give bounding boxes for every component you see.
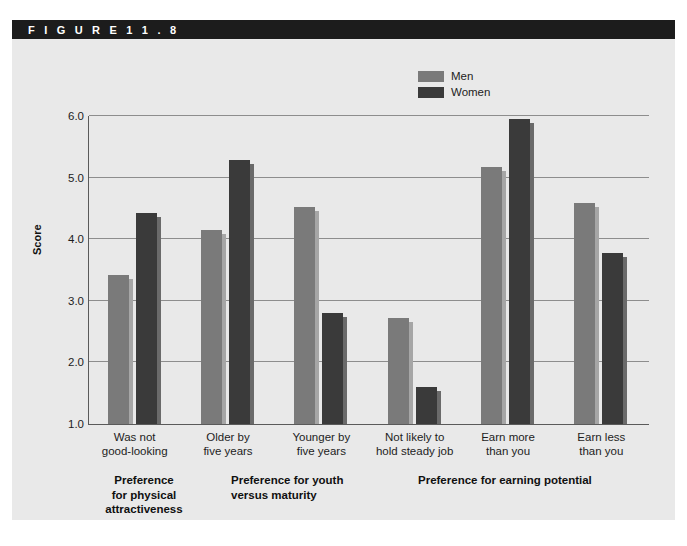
bar-women-1 bbox=[229, 160, 254, 424]
bar-shadow bbox=[157, 217, 161, 424]
bar-shadow bbox=[222, 234, 226, 424]
x-label-line-1: Earn less bbox=[546, 430, 656, 444]
bar-men-2 bbox=[294, 207, 319, 424]
bar-men-4 bbox=[481, 167, 506, 424]
y-axis-tick: 5.0 bbox=[52, 172, 84, 184]
group-label-0: Preferencefor physicalattractiveness bbox=[84, 473, 204, 517]
legend-item-women: Women bbox=[418, 86, 490, 98]
y-axis-title: Score bbox=[31, 224, 43, 255]
group-label-line-1: Preference for youth bbox=[231, 473, 421, 488]
bar-women-4 bbox=[509, 119, 534, 424]
bar-shadow bbox=[315, 211, 319, 424]
bar-shadow bbox=[530, 123, 534, 424]
bar-face bbox=[481, 167, 502, 424]
legend-label-men: Men bbox=[451, 70, 473, 82]
x-axis-category-labels: Was notgood-lookingOlder byfive yearsYou… bbox=[88, 430, 648, 464]
bar-shadow bbox=[343, 317, 347, 424]
legend-swatch-men-icon bbox=[418, 71, 444, 82]
y-axis-tick-labels: 6.05.04.03.02.01.0 bbox=[52, 104, 84, 436]
y-axis-tick: 1.0 bbox=[52, 418, 84, 430]
bar-shadow bbox=[409, 322, 413, 424]
bar-face bbox=[294, 207, 315, 424]
figure-header-bar: F I G U R E 1 1 . 8 bbox=[12, 20, 675, 39]
bar-men-1 bbox=[201, 230, 226, 424]
group-label-line-2: for physical bbox=[84, 488, 204, 503]
group-label-2: Preference for earning potential bbox=[418, 473, 678, 488]
bar-women-2 bbox=[322, 313, 347, 424]
chart-legend: Men Women bbox=[418, 70, 490, 98]
bar-face bbox=[136, 213, 157, 424]
bar-shadow bbox=[502, 171, 506, 424]
bar-women-3 bbox=[416, 387, 441, 424]
legend-label-women: Women bbox=[451, 86, 490, 98]
bar-men-3 bbox=[388, 318, 413, 424]
bar-face bbox=[322, 313, 343, 424]
bar-face bbox=[602, 253, 623, 424]
x-axis-group-labels: Preferencefor physicalattractivenessPref… bbox=[88, 473, 658, 521]
bar-shadow bbox=[623, 257, 627, 424]
bar-shadow bbox=[250, 164, 254, 424]
x-axis-category-label-5: Earn lessthan you bbox=[546, 430, 656, 458]
figure-number-label: F I G U R E 1 1 . 8 bbox=[12, 24, 179, 36]
figure-root: F I G U R E 1 1 . 8 Men Women Score 6.05… bbox=[0, 0, 687, 546]
bar-face bbox=[108, 275, 129, 424]
group-label-1: Preference for youthversus maturity bbox=[231, 473, 421, 502]
group-label-line-3: attractiveness bbox=[84, 502, 204, 517]
bars-layer bbox=[88, 116, 648, 424]
bar-shadow bbox=[595, 207, 599, 424]
y-axis-tick: 3.0 bbox=[52, 295, 84, 307]
bar-men-5 bbox=[574, 203, 599, 424]
group-label-line-1: Preference bbox=[84, 473, 204, 488]
bar-face bbox=[574, 203, 595, 424]
bar-face bbox=[201, 230, 222, 424]
bar-face bbox=[388, 318, 409, 424]
bar-shadow bbox=[437, 391, 441, 424]
y-axis-tick: 2.0 bbox=[52, 356, 84, 368]
bar-face bbox=[416, 387, 437, 424]
bar-face bbox=[229, 160, 250, 424]
x-label-line-2: than you bbox=[546, 444, 656, 458]
group-label-line-2: versus maturity bbox=[231, 488, 421, 503]
y-axis-tick: 4.0 bbox=[52, 233, 84, 245]
legend-item-men: Men bbox=[418, 70, 490, 82]
bar-men-0 bbox=[108, 275, 133, 424]
bar-face bbox=[509, 119, 530, 424]
group-label-line-1: Preference for earning potential bbox=[418, 473, 678, 488]
bar-women-0 bbox=[136, 213, 161, 424]
y-axis-tick: 6.0 bbox=[52, 110, 84, 122]
bar-shadow bbox=[129, 279, 133, 424]
legend-swatch-women-icon bbox=[418, 87, 444, 98]
bar-women-5 bbox=[602, 253, 627, 424]
